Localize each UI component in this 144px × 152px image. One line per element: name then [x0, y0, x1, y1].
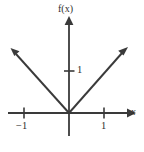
y-tick-label-one: 1: [77, 65, 82, 76]
curve-left-branch: [16, 54, 69, 113]
x-tick-label-positive-one: 1: [101, 121, 106, 132]
curve-right-branch: [69, 53, 122, 113]
x-tick-label-negative-one: −1: [16, 121, 27, 132]
y-axis-label: f(x): [58, 4, 73, 14]
graph-figure: f(x) x −1 1 1: [0, 0, 144, 152]
x-axis-label: x: [131, 107, 135, 117]
curve-left-arrowhead-icon: [11, 48, 20, 56]
y-axis-arrowhead-icon: [65, 16, 74, 25]
